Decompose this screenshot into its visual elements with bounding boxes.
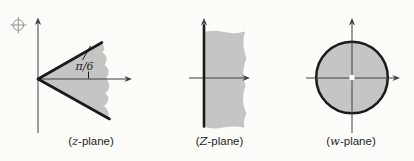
crosshair-icon [10, 17, 26, 34]
panel-w-plane: (w-plane) [306, 18, 400, 148]
half-plane-shaded-region [204, 31, 247, 129]
caption-suffix: -plane) [208, 135, 244, 147]
angle-annotation: π/6 [75, 60, 94, 73]
panel-Z-plane: (Z-plane) [189, 18, 250, 148]
Z-plane-caption: (Z-plane) [196, 134, 244, 148]
caption-suffix: -plane) [78, 135, 114, 147]
panel-z-plane: π/6 (z-plane) [35, 18, 132, 149]
z-plane-caption: (z-plane) [68, 134, 114, 148]
w-plane-caption: (w-plane) [326, 134, 376, 148]
wedge-shaded-region [38, 43, 109, 118]
complex-mapping-figure: π/6 (z-plane) (Z-plane) (w-plane) [0, 0, 414, 161]
origin-open-dot [349, 75, 354, 80]
caption-suffix: -plane) [340, 135, 376, 147]
caption-variable: w [330, 134, 340, 148]
